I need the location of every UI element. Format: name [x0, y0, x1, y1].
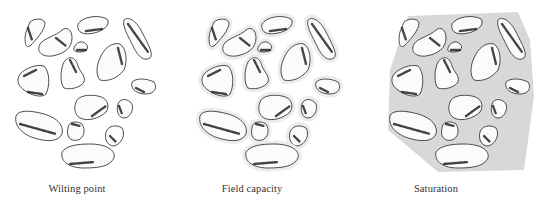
soil-particle [39, 28, 72, 56]
soil-particle [97, 44, 126, 81]
soil-particle [246, 144, 299, 168]
soil-particle [281, 44, 310, 81]
particle-outline [105, 126, 123, 146]
wilting-point-illustration [0, 0, 183, 180]
particle-outline [61, 58, 84, 89]
panel-field-capacity: Field capacity [180, 0, 363, 204]
panel-saturation: Saturation [358, 0, 541, 204]
soil-particle [491, 100, 506, 119]
particle-outline [39, 28, 72, 56]
wilting-point-caption: Wilting point [48, 183, 105, 194]
soil-particle [132, 79, 156, 94]
particle-outline [245, 58, 268, 89]
soil-particle [74, 42, 88, 52]
soil-particle [124, 19, 152, 60]
soil-particle [18, 65, 49, 96]
soil-particle [16, 111, 63, 140]
soil-particle [289, 126, 307, 146]
soil-particle [202, 65, 233, 96]
panel-wilting-point: Wilting point [0, 0, 183, 204]
saturation-caption: Saturation [414, 183, 458, 194]
soil-particle [200, 111, 247, 140]
soil-particle [117, 100, 132, 119]
soil-particle [251, 122, 268, 140]
soil-particle [301, 100, 316, 119]
soil-particle [436, 144, 489, 168]
saturation-illustration [358, 0, 541, 180]
soil-particle [259, 95, 292, 119]
field-capacity-illustration [180, 0, 363, 180]
soil-particle [105, 126, 123, 146]
soil-particle [75, 95, 108, 119]
soil-particle [61, 58, 84, 89]
soil-particle [316, 79, 340, 94]
soil-particle [67, 122, 84, 140]
soil-particle [262, 17, 292, 34]
field-capacity-caption: Field capacity [222, 183, 283, 194]
soil-particle [441, 122, 458, 140]
soil-particle [62, 144, 115, 168]
soil-particle [245, 58, 268, 89]
soil-particle [78, 17, 108, 34]
soil-particle [258, 42, 272, 52]
